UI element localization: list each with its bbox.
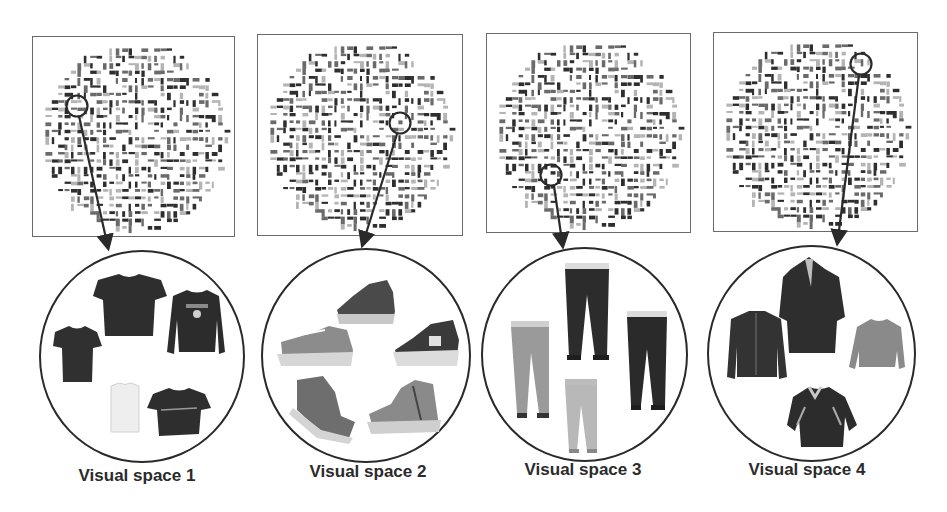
- tshirt-icon: [53, 326, 102, 382]
- items-cluster-4: [709, 247, 918, 464]
- jacket-icon: [787, 387, 857, 447]
- sneaker-icon: [277, 326, 353, 366]
- visual-space-label-2: Visual space 2: [268, 462, 468, 482]
- pants-icon: [565, 263, 609, 360]
- items-cluster-1: [41, 252, 247, 465]
- embedding-map-3: [486, 33, 691, 233]
- embedding-map-4: [713, 32, 918, 232]
- visual-space-label-4: Visual space 4: [707, 460, 907, 480]
- sneaker-icon: [367, 380, 441, 434]
- sweatshirt-icon: [167, 290, 225, 354]
- thumbnail-scatter: [33, 37, 235, 237]
- visual-space-circle-1: [39, 250, 245, 463]
- jacket-icon: [727, 311, 787, 379]
- sneaker-icon: [393, 320, 459, 366]
- tshirt-icon: [147, 388, 211, 436]
- embedding-map-2: [257, 34, 463, 236]
- pants-icon: [565, 379, 597, 453]
- sneaker-icon: [289, 376, 355, 444]
- thumbnail-scatter: [714, 33, 918, 232]
- thumbnail-scatter: [258, 35, 463, 236]
- thumbnail-scatter: [487, 34, 691, 233]
- tshirt-icon: [93, 274, 167, 336]
- jacket-icon: [849, 319, 905, 369]
- items-cluster-3: [483, 249, 690, 464]
- visual-space-circle-4: [707, 245, 916, 462]
- visual-space-circle-2: [261, 248, 471, 463]
- pants-icon: [627, 311, 667, 410]
- jacket-icon: [779, 257, 845, 353]
- visual-space-label-1: Visual space 1: [37, 466, 237, 486]
- visual-space-circle-3: [481, 247, 688, 462]
- items-cluster-2: [263, 250, 473, 465]
- pants-icon: [511, 321, 549, 418]
- sneaker-icon: [337, 280, 395, 324]
- visual-space-label-3: Visual space 3: [483, 460, 683, 480]
- tshirt-white-icon: [111, 383, 139, 432]
- embedding-map-1: [32, 36, 235, 237]
